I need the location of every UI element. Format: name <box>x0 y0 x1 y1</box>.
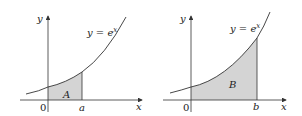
figure: y x 0 a A y = ex y x 0 b B y = ex <box>0 0 302 116</box>
region-b-shading <box>191 38 257 100</box>
origin-label: 0 <box>183 102 189 113</box>
curve-label: y = ex <box>229 22 260 34</box>
region-a-label: A <box>62 89 70 100</box>
bound-b-label: b <box>253 101 259 112</box>
bound-a-label: a <box>79 102 85 113</box>
region-b-label: B <box>228 79 236 90</box>
x-axis-label: x <box>281 101 287 112</box>
origin-label: 0 <box>40 102 46 113</box>
y-axis-label: y <box>36 13 43 24</box>
curve-label: y = ex <box>86 26 117 38</box>
y-axis-label: y <box>179 13 186 24</box>
x-axis-label: x <box>136 101 142 112</box>
left-panel: y x 0 a A y = ex <box>20 13 142 113</box>
right-panel: y x 0 b B y = ex <box>163 12 287 113</box>
